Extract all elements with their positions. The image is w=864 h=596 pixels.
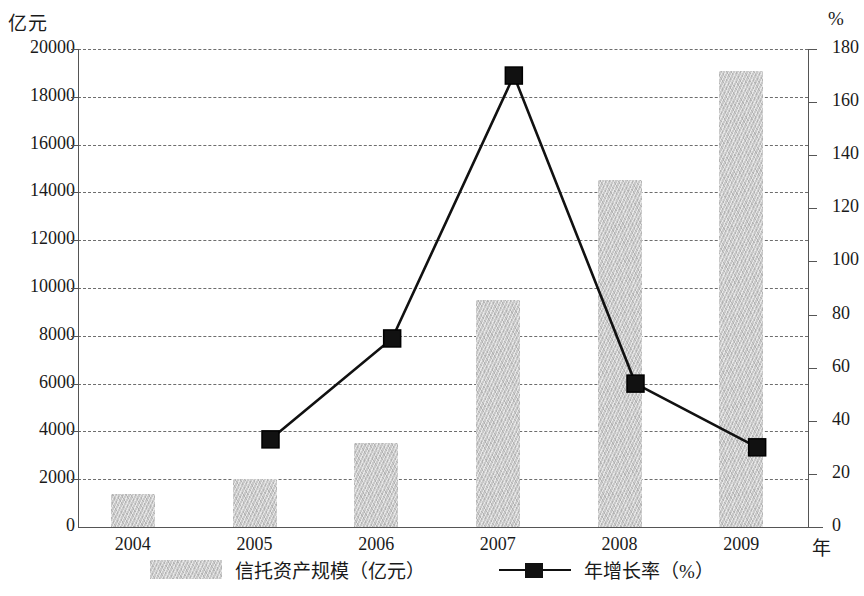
legend-label-bar: 信托资产规模（亿元） (235, 556, 425, 583)
legend-item-bar: 信托资产规模（亿元） (150, 556, 425, 583)
line-series (0, 0, 864, 596)
line-marker (749, 439, 766, 456)
line-marker (262, 431, 279, 448)
chart-container: 亿元 % 年 020004000600080001000012000140001… (0, 0, 864, 596)
legend-bar-swatch-icon (150, 560, 222, 579)
line-marker (627, 375, 644, 392)
line-marker (505, 67, 522, 84)
line-marker (384, 330, 401, 347)
growth-rate-line (271, 76, 758, 448)
legend-item-line: 年增长率（%） (499, 556, 714, 583)
legend-label-line: 年增长率（%） (584, 556, 714, 583)
chart-legend: 信托资产规模（亿元） 年增长率（%） (0, 556, 864, 583)
legend-line-square-icon (499, 560, 571, 579)
